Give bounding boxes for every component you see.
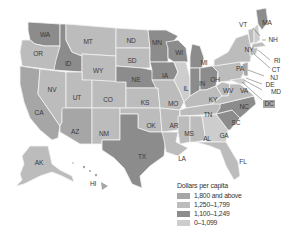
leader-ct-line xyxy=(254,54,270,68)
legend-swatch xyxy=(177,193,190,199)
label-tx: TX xyxy=(138,153,147,160)
label-ok: OK xyxy=(146,122,156,129)
label-in: IN xyxy=(199,80,206,87)
label-tn: TN xyxy=(204,111,213,118)
label-dc: DC xyxy=(264,100,274,107)
label-sd: SD xyxy=(128,57,137,64)
label-co: CO xyxy=(103,96,113,103)
state-hi-2 xyxy=(83,166,85,168)
label-mi: MI xyxy=(201,59,208,66)
label-ma: MA xyxy=(262,19,272,26)
label-ut: UT xyxy=(73,94,82,101)
label-va: VA xyxy=(240,87,249,94)
label-nv: NV xyxy=(48,86,58,93)
label-nj: NJ xyxy=(270,74,278,81)
label-ca: CA xyxy=(35,109,45,116)
leader-de-line xyxy=(246,78,262,84)
legend-item: 1,800 and above xyxy=(177,191,287,200)
state-nh xyxy=(254,24,260,44)
state-hi-5 xyxy=(101,182,108,190)
leader-ri-line xyxy=(258,50,270,60)
label-nc: NC xyxy=(239,103,249,110)
label-fl: FL xyxy=(239,158,247,165)
legend-item: 0–1,099 xyxy=(177,218,287,227)
label-ky: KY xyxy=(209,96,218,103)
legend-label: 0–1,099 xyxy=(194,219,217,226)
state-nm xyxy=(92,108,120,144)
label-wa: WA xyxy=(40,31,51,38)
legend-label: 1,800 and above xyxy=(194,192,242,199)
label-wv: WV xyxy=(223,87,234,94)
legend-item: 1,100–1,249 xyxy=(177,209,287,218)
legend-item: 1,250–1,799 xyxy=(177,200,287,209)
legend: Dollars per capita 1,800 and above 1,250… xyxy=(177,182,287,227)
label-il: IL xyxy=(183,85,189,92)
leader-nj-line xyxy=(248,70,264,76)
label-or: OR xyxy=(33,50,43,57)
label-ks: KS xyxy=(141,99,150,106)
legend-title: Dollars per capita xyxy=(177,182,287,189)
state-hi-3 xyxy=(89,170,91,172)
label-nh: NH xyxy=(268,36,278,43)
label-mn: MN xyxy=(152,39,162,46)
state-co xyxy=(92,80,126,108)
label-id: ID xyxy=(65,60,72,67)
label-az: AZ xyxy=(71,128,79,135)
label-mt: MT xyxy=(83,38,92,45)
legend-swatch xyxy=(177,220,190,226)
label-vt: VT xyxy=(239,21,247,28)
label-al: AL xyxy=(203,135,211,142)
label-nd: ND xyxy=(126,37,136,44)
label-wi: WI xyxy=(175,49,183,56)
state-hi-4 xyxy=(95,174,97,176)
label-pa: PA xyxy=(236,65,245,72)
state-az xyxy=(60,108,92,144)
state-fl xyxy=(196,142,240,180)
label-ms: MS xyxy=(184,130,194,137)
label-ny: NY xyxy=(245,46,255,53)
label-wy: WY xyxy=(93,67,104,74)
legend-label: 1,100–1,249 xyxy=(194,210,230,217)
label-ri: RI xyxy=(274,57,281,64)
label-ne: NE xyxy=(132,76,142,83)
label-la: LA xyxy=(178,155,186,162)
label-ar: AR xyxy=(170,122,179,129)
label-ct: CT xyxy=(272,66,281,73)
label-hi: HI xyxy=(90,180,97,187)
legend-swatch xyxy=(177,202,190,208)
label-ia: IA xyxy=(162,72,169,79)
label-nm: NM xyxy=(99,130,109,137)
label-oh: OH xyxy=(210,76,220,83)
label-de: DE xyxy=(266,81,276,88)
legend-swatch xyxy=(177,211,190,217)
label-md: MD xyxy=(271,88,281,95)
label-mo: MO xyxy=(168,100,178,107)
legend-label: 1,250–1,799 xyxy=(194,201,230,208)
label-sc: SC xyxy=(232,119,241,126)
state-hi-1 xyxy=(72,162,74,164)
label-ga: GA xyxy=(219,132,229,139)
state-ak xyxy=(16,146,74,186)
label-ak: AK xyxy=(35,159,44,166)
